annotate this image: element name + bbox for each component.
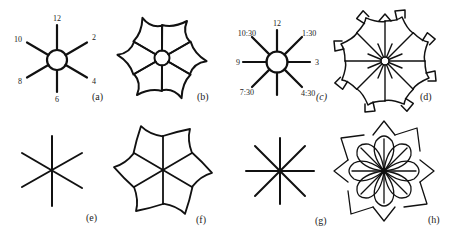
label-10-30: 10:30: [238, 29, 256, 38]
label-9: 9: [236, 58, 240, 67]
eight-spoke-clock-icon: [243, 30, 310, 95]
label-12: 12: [273, 19, 281, 28]
panel-d: (d): [329, 5, 441, 117]
label-8: 8: [18, 77, 22, 86]
panel-a: 12 2 4 6 8 10 (a): [14, 14, 103, 104]
caption-e: (e): [86, 212, 97, 224]
caption-f: (f): [196, 214, 206, 226]
six-petal-flower-icon: [116, 15, 208, 100]
caption-c: (c): [316, 91, 328, 103]
caption-a: (a): [92, 91, 103, 103]
figure-canvas: 12 2 4 6 8 10 (a) (b): [0, 0, 455, 241]
caption-h: (h): [428, 214, 440, 226]
label-10: 10: [14, 35, 22, 44]
panel-c: 12 1:30 3 4:30 7:30 9 10:30 (c): [236, 19, 328, 103]
interlaced-rosette-icon: [334, 121, 434, 221]
caption-g: (g): [315, 215, 327, 227]
six-line-asterisk-icon: [22, 136, 82, 206]
six-spoke-clock-icon: [27, 25, 87, 92]
panel-e: (e): [22, 136, 97, 224]
label-12: 12: [53, 14, 61, 23]
panel-f: (f): [113, 124, 213, 226]
label-2: 2: [92, 33, 96, 42]
six-petal-star-icon: [113, 124, 213, 215]
panel-g: (g): [246, 138, 327, 227]
label-6: 6: [55, 95, 59, 104]
caption-d: (d): [420, 91, 432, 103]
panel-h: (h): [334, 121, 440, 226]
label-1-30: 1:30: [302, 29, 316, 38]
caption-b: (b): [197, 91, 209, 103]
label-4-30: 4:30: [301, 89, 315, 98]
label-3: 3: [315, 58, 319, 67]
panel-b: (b): [116, 15, 209, 103]
label-7-30: 7:30: [240, 88, 254, 97]
label-4: 4: [92, 77, 96, 86]
eight-line-asterisk-icon: [246, 138, 314, 204]
